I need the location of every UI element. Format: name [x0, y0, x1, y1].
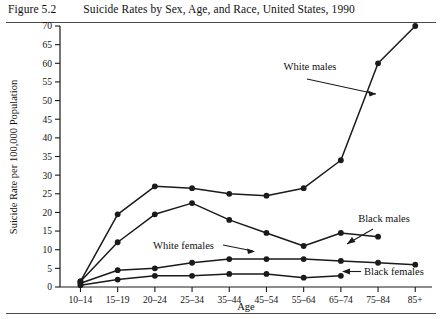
data-point-marker	[226, 217, 232, 223]
data-point-marker	[189, 260, 195, 266]
data-point-marker	[301, 256, 307, 262]
annotation-black-males-label: Black males	[358, 213, 410, 224]
figure-rule-bottom	[6, 313, 436, 314]
data-point-marker	[189, 200, 195, 206]
data-point-marker	[152, 183, 158, 189]
data-point-marker	[375, 60, 381, 66]
data-point-marker	[226, 256, 232, 262]
series-white-males	[78, 23, 419, 284]
y-tick-label: 65	[43, 40, 53, 50]
y-tick-label: 0	[47, 282, 52, 292]
data-point-marker	[115, 239, 121, 245]
annotation-white-females: White females	[153, 240, 255, 254]
x-tick-label: 85+	[408, 295, 423, 305]
x-axis-ticks	[80, 287, 415, 292]
y-tick-label: 35	[43, 152, 53, 162]
annotation-white-females-arrowhead	[247, 249, 255, 255]
data-point-marker	[264, 193, 270, 199]
data-point-marker	[189, 185, 195, 191]
data-point-marker	[264, 271, 270, 277]
data-point-marker	[301, 275, 307, 281]
data-point-marker	[375, 234, 381, 240]
annotation-black-females: Black females	[342, 266, 424, 277]
annotation-white-males-arrow	[307, 79, 376, 94]
y-tick-label: 45	[43, 115, 53, 125]
annotation-white-males-label: White males	[284, 61, 337, 72]
annotation-white-males-arrowhead	[368, 91, 376, 97]
y-tick-label: 5	[47, 264, 52, 274]
data-point-marker	[78, 282, 84, 288]
data-point-marker	[226, 191, 232, 197]
data-series-layer	[78, 23, 419, 288]
x-axis-title: Age	[237, 301, 255, 312]
x-tick-label: 15–19	[106, 295, 130, 305]
annotation-black-females-arrowhead	[342, 269, 350, 275]
series-black-females	[78, 271, 344, 288]
data-point-marker	[301, 243, 307, 249]
data-point-marker	[375, 260, 381, 266]
data-point-marker	[115, 267, 121, 273]
data-point-marker	[115, 277, 121, 283]
data-point-marker	[115, 211, 121, 217]
x-tick-label: 55–64	[292, 295, 316, 305]
figure-container: Figure 5.2 Suicide Rates by Sex, Age, an…	[0, 0, 442, 319]
data-point-marker	[152, 211, 158, 217]
y-tick-label: 70	[43, 22, 53, 31]
y-tick-label: 50	[43, 96, 53, 106]
data-point-marker	[338, 157, 344, 163]
data-point-marker	[152, 265, 158, 271]
y-tick-label: 55	[43, 77, 53, 87]
data-point-marker	[338, 258, 344, 264]
y-tick-label: 10	[43, 245, 53, 255]
y-tick-label: 20	[43, 208, 53, 218]
figure-title: Suicide Rates by Sex, Age, and Race, Uni…	[83, 3, 355, 15]
y-axis-ticks	[55, 26, 60, 287]
figure-caption: Figure 5.2 Suicide Rates by Sex, Age, an…	[0, 3, 442, 21]
data-point-marker	[412, 23, 418, 29]
annotation-black-females-label: Black females	[364, 266, 424, 277]
y-tick-label: 30	[43, 171, 53, 181]
y-tick-label: 25	[43, 189, 53, 199]
data-point-marker	[264, 230, 270, 236]
chart-plot: 0510152025303540455055606570 10–1415–192…	[0, 22, 442, 312]
figure-number: Figure 5.2	[8, 3, 56, 15]
x-tick-label: 10–14	[69, 295, 93, 305]
x-tick-label: 45–54	[255, 295, 279, 305]
x-tick-label: 20–24	[143, 295, 167, 305]
data-point-marker	[152, 273, 158, 279]
data-point-marker	[338, 230, 344, 236]
x-tick-label: 25–34	[180, 295, 204, 305]
x-tick-label: 65–74	[329, 295, 353, 305]
data-point-marker	[226, 271, 232, 277]
annotation-white-females-label: White females	[153, 240, 214, 251]
y-tick-label: 40	[43, 133, 53, 143]
series-line	[80, 26, 415, 281]
annotation-black-males-arrowhead	[347, 237, 356, 244]
data-point-marker	[264, 256, 270, 262]
y-axis-title: Suicide Rate per 100,000 Population	[8, 79, 19, 234]
x-tick-label: 75–84	[366, 295, 390, 305]
y-axis-tick-labels: 0510152025303540455055606570	[43, 22, 53, 292]
data-point-marker	[301, 185, 307, 191]
y-tick-label: 60	[43, 59, 53, 69]
y-tick-label: 15	[43, 226, 53, 236]
data-point-marker	[189, 273, 195, 279]
data-point-marker	[338, 273, 344, 279]
annotation-white-males: White males	[284, 61, 376, 97]
